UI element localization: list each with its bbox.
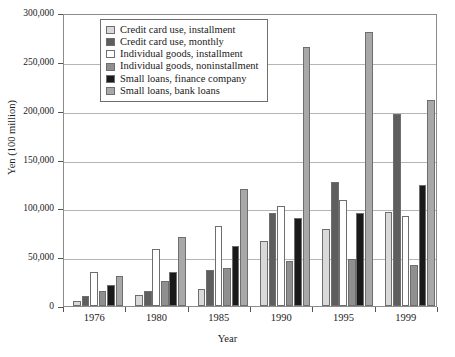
grid-line <box>64 259 436 260</box>
bar-1995-series-2 <box>339 200 347 306</box>
bar-1985-series-3 <box>223 268 231 306</box>
x-axis-tick-label: 1980 <box>127 313 187 324</box>
bar-1990-series-2 <box>277 206 285 306</box>
x-axis-tick-mark <box>312 307 313 312</box>
bar-1976-series-2 <box>90 272 98 306</box>
legend-item: Individual goods, noninstallment <box>106 61 259 73</box>
y-axis-tick-label: 0 <box>49 302 54 312</box>
legend-item: Small loans, bank loans <box>106 85 259 97</box>
y-axis-tick-label: 250,000 <box>23 58 54 68</box>
bar-1999-series-1 <box>393 114 401 306</box>
bar-1985-series-2 <box>215 226 223 306</box>
bar-1990-series-5 <box>303 47 311 306</box>
bar-1976-series-0 <box>73 301 81 306</box>
x-axis-tick-mark <box>188 307 189 312</box>
bar-1995-series-4 <box>356 213 364 306</box>
x-axis-tick-label: 1995 <box>314 313 374 324</box>
legend-swatch-icon <box>106 75 115 83</box>
bar-1980-series-0 <box>135 295 143 306</box>
x-axis-tick-label: 1999 <box>376 313 436 324</box>
x-axis-tick-mark <box>437 307 438 312</box>
legend-label: Individual goods, noninstallment <box>120 61 259 72</box>
x-axis-tick-label: 1990 <box>251 313 311 324</box>
bar-1980-series-3 <box>161 281 169 306</box>
bar-1995-series-0 <box>322 229 330 306</box>
bar-1990-series-0 <box>260 241 268 306</box>
y-axis-tick-label: 50,000 <box>28 253 54 263</box>
chart-figure: 050,000100,000150,000200,000250,000300,0… <box>0 0 455 357</box>
bar-1990-series-4 <box>294 218 302 306</box>
y-axis-tick-label: 300,000 <box>23 9 54 19</box>
bar-1990-series-3 <box>286 261 294 306</box>
y-axis-tick-label: 100,000 <box>23 204 54 214</box>
bar-1980-series-4 <box>169 272 177 306</box>
x-axis-tick-mark <box>63 307 64 312</box>
x-axis-tick-mark <box>125 307 126 312</box>
legend-label: Credit card use, installment <box>120 25 235 36</box>
legend-item: Individual goods, installment <box>106 48 259 60</box>
legend-label: Small loans, bank loans <box>120 86 220 97</box>
bar-1980-series-5 <box>178 237 186 306</box>
bar-1980-series-1 <box>144 291 152 306</box>
chart-legend: Credit card use, installmentCredit card … <box>100 19 268 102</box>
x-axis-title: Year <box>0 333 455 344</box>
legend-label: Individual goods, installment <box>120 49 243 60</box>
bar-1999-series-2 <box>402 216 410 306</box>
bar-1995-series-5 <box>365 32 373 306</box>
bar-1980-series-2 <box>152 249 160 306</box>
bar-1999-series-0 <box>385 212 393 306</box>
grid-line <box>64 113 436 114</box>
bar-1985-series-4 <box>232 246 240 306</box>
y-axis-tick-label: 200,000 <box>23 107 54 117</box>
y-axis-title: Yen (100 million) <box>6 73 17 203</box>
bar-1999-series-4 <box>419 185 427 306</box>
x-axis-tick-mark <box>375 307 376 312</box>
legend-item: Credit card use, installment <box>106 24 259 36</box>
bar-1976-series-3 <box>99 291 107 306</box>
x-axis-tick-label: 1985 <box>189 313 249 324</box>
bar-1976-series-1 <box>82 296 90 306</box>
legend-swatch-icon <box>106 26 115 34</box>
legend-label: Credit card use, monthly <box>120 37 224 48</box>
legend-item: Small loans, finance company <box>106 73 259 85</box>
bar-1985-series-5 <box>240 189 248 306</box>
legend-swatch-icon <box>106 87 115 95</box>
bar-1985-series-0 <box>198 289 206 306</box>
bar-1999-series-3 <box>410 265 418 306</box>
grid-line <box>64 210 436 211</box>
bar-1995-series-1 <box>331 182 339 306</box>
grid-line <box>64 162 436 163</box>
bar-1976-series-4 <box>107 285 115 306</box>
legend-swatch-icon <box>106 50 115 58</box>
y-axis-tick-label: 150,000 <box>23 156 54 166</box>
bar-1985-series-1 <box>206 270 214 306</box>
bar-1995-series-3 <box>348 259 356 306</box>
legend-label: Small loans, finance company <box>120 74 247 85</box>
legend-swatch-icon <box>106 38 115 46</box>
bar-1999-series-5 <box>427 100 435 306</box>
x-axis-tick-mark <box>250 307 251 312</box>
bar-1976-series-5 <box>116 276 124 306</box>
bar-1990-series-1 <box>269 213 277 306</box>
legend-item: Credit card use, monthly <box>106 36 259 48</box>
legend-swatch-icon <box>106 63 115 71</box>
x-axis-tick-label: 1976 <box>64 313 124 324</box>
